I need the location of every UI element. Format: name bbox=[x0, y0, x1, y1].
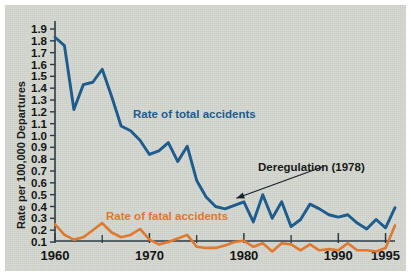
y-tick-label: 0.3 bbox=[31, 212, 47, 224]
y-axis-title: Rate per 100,000 Departures bbox=[15, 81, 27, 229]
series-label-fatal-accidents: Rate of fatal accidents bbox=[106, 210, 228, 222]
series-label-total-accidents: Rate of total accidents bbox=[133, 108, 256, 120]
y-tick-label: 1.1 bbox=[31, 118, 48, 130]
y-tick-label: 0.8 bbox=[31, 153, 48, 165]
y-tick-label: 1.5 bbox=[31, 70, 48, 82]
accident-rate-line-chart: Rate per 100,000 Departures 0.10.20.30.4… bbox=[5, 5, 406, 271]
y-tick-label: 0.2 bbox=[31, 224, 47, 236]
x-tick-label: 1970 bbox=[135, 248, 164, 263]
series-line-fatal-accidents bbox=[55, 223, 395, 251]
y-tick-label: 1.4 bbox=[31, 82, 48, 94]
chart-figure: Rate per 100,000 Departures 0.10.20.30.4… bbox=[0, 0, 411, 276]
x-tick-label: 1960 bbox=[41, 248, 70, 263]
y-tick-label: 1.6 bbox=[31, 59, 47, 71]
y-tick-label: 1.0 bbox=[31, 130, 47, 142]
y-tick-label: 1.7 bbox=[31, 47, 47, 59]
y-tick-label: 1.8 bbox=[31, 35, 48, 47]
annotation-deregulation: Deregulation (1978) bbox=[236, 161, 365, 198]
y-tick-label: 0.9 bbox=[31, 141, 47, 153]
y-tick-label: 0.7 bbox=[31, 165, 47, 177]
y-tick-label: 1.2 bbox=[31, 106, 47, 118]
x-tick-label: 1980 bbox=[229, 248, 258, 263]
annotation-label-deregulation: Deregulation (1978) bbox=[258, 161, 365, 173]
y-tick-label: 1.9 bbox=[31, 23, 47, 35]
y-axis-ticks: 0.10.20.30.40.50.60.70.80.91.01.11.21.31… bbox=[31, 23, 55, 248]
series-line-total-accidents bbox=[55, 37, 395, 229]
chart-plate: Rate per 100,000 Departures 0.10.20.30.4… bbox=[5, 5, 406, 271]
annotation-arrow-head bbox=[236, 193, 245, 199]
y-tick-label: 0.6 bbox=[31, 177, 47, 189]
y-tick-label: 1.3 bbox=[31, 94, 47, 106]
y-tick-label: 0.1 bbox=[31, 236, 48, 248]
y-tick-label: 0.4 bbox=[31, 201, 48, 213]
y-tick-label: 0.5 bbox=[31, 189, 48, 201]
